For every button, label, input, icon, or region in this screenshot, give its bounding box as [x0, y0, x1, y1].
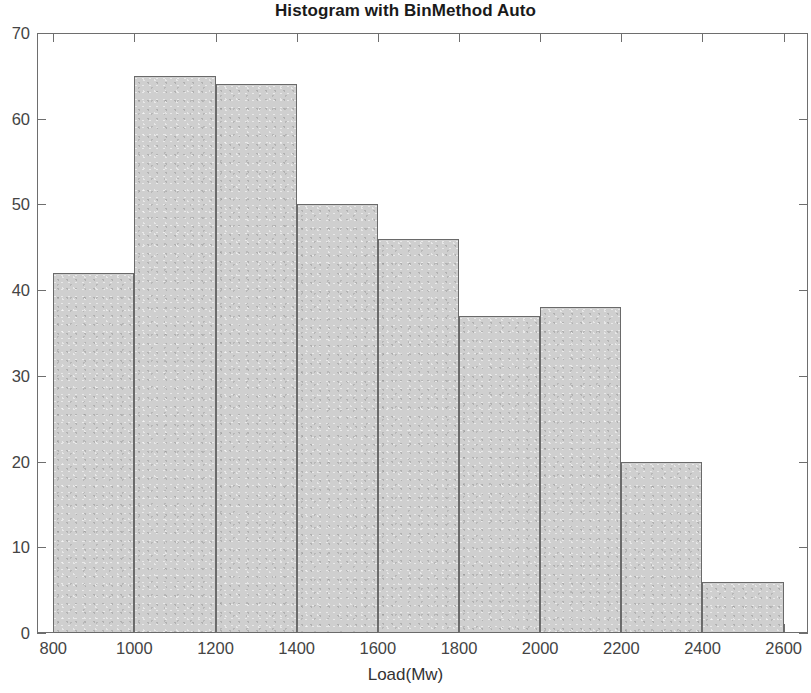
histogram-bar — [702, 582, 783, 633]
x-axis-tick-label: 2200 — [591, 639, 651, 658]
y-axis-tick-label: 70 — [0, 24, 30, 43]
x-axis-tick-label: 1400 — [267, 639, 327, 658]
y-axis-tick-label: 50 — [0, 195, 30, 214]
y-axis-tick-label: 60 — [0, 109, 30, 128]
x-axis-label: Load(Mw) — [0, 665, 811, 685]
y-axis-tick-label: 30 — [0, 366, 30, 385]
histogram-bar — [378, 239, 459, 633]
x-axis-tick-label: 1200 — [186, 639, 246, 658]
histogram-figure: Histogram with BinMethod Auto 0102030405… — [0, 0, 811, 693]
x-axis-tick — [702, 624, 703, 633]
histogram-bar — [134, 76, 215, 633]
histogram-bar — [297, 204, 378, 633]
x-axis-tick — [378, 624, 379, 633]
y-axis-tick-right — [799, 633, 808, 634]
histogram-bars — [37, 33, 808, 633]
x-axis-tick-label: 2400 — [672, 639, 732, 658]
x-axis-tick — [540, 624, 541, 633]
y-axis-tick-label: 10 — [0, 538, 30, 557]
y-axis-tick-label: 40 — [0, 281, 30, 300]
x-axis-tick — [216, 624, 217, 633]
x-axis-tick-label: 1600 — [348, 639, 408, 658]
x-axis-tick — [297, 624, 298, 633]
y-axis-tick-label: 20 — [0, 452, 30, 471]
x-axis-tick — [53, 624, 54, 633]
histogram-bar — [216, 84, 297, 633]
x-axis-tick — [621, 624, 622, 633]
x-axis-tick-label: 2600 — [754, 639, 811, 658]
histogram-bar — [53, 273, 134, 633]
histogram-bar — [540, 307, 621, 633]
x-axis-tick — [459, 624, 460, 633]
x-axis-tick — [134, 624, 135, 633]
chart-title: Histogram with BinMethod Auto — [0, 1, 811, 21]
x-axis-tick — [784, 624, 785, 633]
x-axis-tick-label: 2000 — [510, 639, 570, 658]
histogram-bar — [459, 316, 540, 633]
y-axis-tick — [37, 633, 46, 634]
x-axis-tick-label: 800 — [23, 639, 83, 658]
x-axis-tick-label: 1800 — [429, 639, 489, 658]
x-axis-tick-label: 1000 — [104, 639, 164, 658]
histogram-bar — [621, 462, 702, 633]
